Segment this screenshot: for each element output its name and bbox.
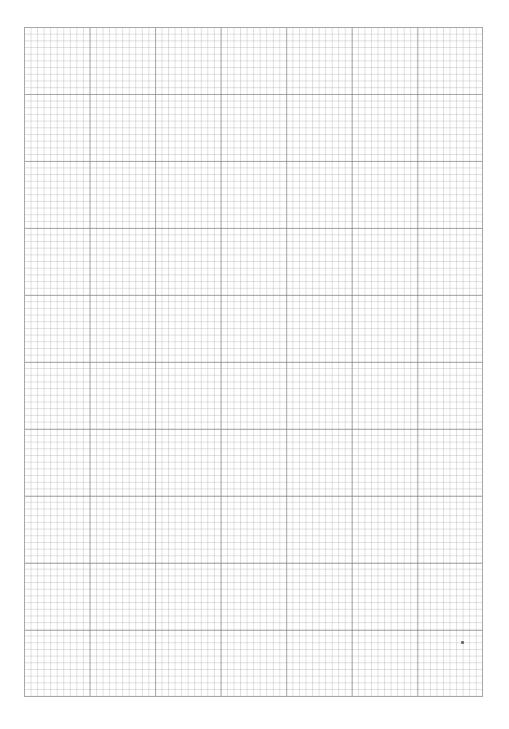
millimeter-grid	[24, 27, 483, 697]
ink-speck	[461, 641, 464, 644]
graph-paper-page	[0, 0, 509, 729]
